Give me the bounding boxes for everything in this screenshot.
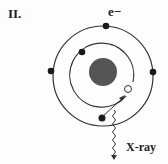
electron-outer-left: [48, 68, 55, 75]
electron-label: e−: [108, 4, 121, 20]
atom-diagram: II. e− X-ray: [0, 0, 168, 164]
panel-label: II.: [8, 6, 21, 22]
nucleus: [89, 58, 117, 86]
electron-outer-bottom: [99, 115, 106, 122]
electron-inner: [79, 49, 86, 56]
electron-outer-right: [150, 69, 157, 76]
electron-outer-top: [103, 23, 110, 30]
xray-arrow-head-icon: [111, 155, 117, 160]
xray-wave: [113, 110, 116, 158]
xray-label: X-ray: [126, 140, 156, 155]
vacancy-hole: [125, 86, 132, 93]
